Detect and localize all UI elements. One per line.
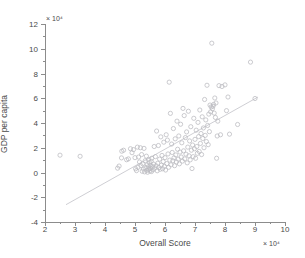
y-tick-mark (41, 24, 45, 25)
y-tick-label: 6 (12, 94, 38, 103)
data-point-marker (209, 105, 213, 109)
x-minor-tick (270, 222, 271, 224)
data-point-marker (142, 146, 146, 150)
data-point-markers (58, 41, 257, 174)
data-point-marker (211, 104, 215, 108)
y-minor-tick (43, 61, 45, 62)
data-point-marker (178, 150, 182, 154)
data-point-marker (143, 159, 147, 163)
x-minor-tick (60, 222, 61, 224)
data-point-marker (189, 125, 193, 129)
data-point-marker (171, 159, 175, 163)
data-point-marker (206, 123, 210, 127)
data-point-marker (203, 97, 207, 101)
data-point-marker (198, 108, 202, 112)
data-point-marker (185, 130, 189, 134)
data-point-marker (212, 111, 216, 115)
y-tick-mark (41, 123, 45, 124)
data-point-marker (148, 163, 152, 167)
data-point-marker (138, 146, 142, 150)
data-point-marker (171, 126, 175, 130)
trend-line (66, 97, 258, 205)
data-point-marker (183, 157, 187, 161)
data-point-marker (176, 157, 180, 161)
y-axis-line (45, 24, 46, 222)
data-point-marker (186, 145, 190, 149)
data-point-marker (208, 103, 212, 107)
y-tick-mark (41, 49, 45, 50)
data-point-marker (163, 156, 167, 160)
data-point-marker (140, 152, 144, 156)
data-point-marker (207, 130, 211, 134)
data-point-marker (180, 141, 184, 145)
y-minor-tick (43, 210, 45, 211)
data-point-marker (152, 144, 156, 148)
data-point-marker (177, 162, 181, 166)
y-tick-label: 10 (12, 44, 38, 53)
data-point-marker (140, 169, 144, 173)
y-minor-tick (43, 111, 45, 112)
data-point-marker (209, 110, 213, 114)
y-tick-mark (41, 222, 45, 223)
data-point-marker (204, 139, 208, 143)
data-point-marker (159, 163, 163, 167)
y-minor-tick (43, 86, 45, 87)
data-point-marker (164, 168, 168, 172)
data-point-marker (185, 161, 189, 165)
data-point-marker (120, 149, 124, 153)
data-point-marker (147, 161, 151, 165)
y-tick-label: 0 (12, 168, 38, 177)
data-point-marker (198, 141, 202, 145)
data-point-marker (149, 166, 153, 170)
data-point-marker (216, 119, 220, 123)
data-point-marker (190, 166, 194, 170)
data-point-marker (196, 120, 200, 124)
data-point-marker (144, 166, 148, 170)
x-tick-label: 6 (163, 225, 167, 234)
y-minor-tick (43, 135, 45, 136)
data-point-marker (141, 167, 145, 171)
data-point-marker (160, 153, 164, 157)
data-point-marker (195, 144, 199, 148)
y-axis-title: GDP per capita (0, 95, 9, 153)
data-point-marker (191, 155, 195, 159)
data-point-marker (214, 101, 218, 105)
data-point-marker (131, 148, 135, 152)
data-point-marker (155, 129, 159, 133)
data-point-marker (193, 137, 197, 141)
x-minor-tick (180, 222, 181, 224)
data-point-marker (182, 113, 186, 117)
x-tick-label: 3 (73, 225, 77, 234)
data-point-marker (220, 84, 224, 88)
data-point-marker (158, 167, 162, 171)
data-point-marker (253, 96, 257, 100)
data-point-marker (134, 169, 138, 173)
x-tick-label: 8 (223, 225, 227, 234)
y-minor-tick (43, 160, 45, 161)
data-point-marker (146, 170, 150, 174)
data-point-marker (201, 126, 205, 130)
data-point-marker (167, 80, 171, 84)
data-point-marker (195, 151, 199, 155)
x-tick-label: 9 (253, 225, 257, 234)
data-point-marker (164, 133, 168, 137)
data-point-marker (149, 159, 153, 163)
data-point-marker (157, 165, 161, 169)
data-point-marker (184, 152, 188, 156)
data-point-marker (168, 111, 172, 115)
data-point-marker (128, 147, 132, 151)
data-point-marker (153, 166, 157, 170)
data-point-marker (167, 165, 171, 169)
x-minor-tick (240, 222, 241, 224)
data-point-marker (200, 152, 204, 156)
data-point-marker (188, 139, 192, 143)
data-point-marker (154, 164, 158, 168)
data-point-marker (139, 164, 143, 168)
data-point-marker (134, 167, 138, 171)
data-point-marker (143, 170, 147, 174)
data-point-marker (173, 137, 177, 141)
data-point-marker (145, 163, 149, 167)
data-point-marker (194, 128, 198, 132)
data-point-marker (223, 83, 227, 87)
x-axis-title: Overall Score (139, 238, 191, 248)
